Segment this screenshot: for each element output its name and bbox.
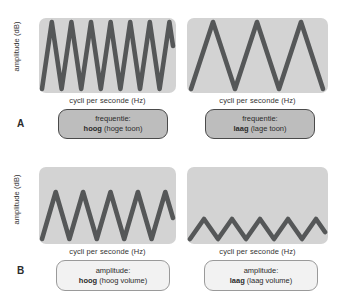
waveform-a-left	[39, 18, 176, 93]
callout-a-left-emphasis: hoog	[84, 124, 102, 133]
sound-wave-diagram: A amplitude (dB) cycli per seconde (Hz) …	[0, 0, 341, 295]
wave-path-high-amplitude	[42, 192, 173, 239]
waveform-a-right	[187, 18, 328, 93]
wave-path-high-frequency	[42, 22, 173, 89]
row-a: A amplitude (dB) cycli per seconde (Hz) …	[0, 0, 341, 147]
callout-a-right-emphasis: laag	[234, 124, 249, 133]
y-axis-label-b: amplitude (dB)	[12, 162, 21, 238]
x-axis-label-b-left: cycli per seconde (Hz)	[39, 247, 176, 256]
waveform-panel-a-left	[39, 18, 176, 93]
row-label-b: B	[17, 265, 24, 276]
callout-a-left-line2: hoog (hoge toon)	[84, 124, 143, 134]
callout-b-right-emphasis: laag	[230, 276, 245, 285]
x-axis-label-a-left: cycli per seconde (Hz)	[39, 96, 176, 105]
waveform-b-left	[39, 167, 176, 244]
y-axis-label-a: amplitude (dB)	[12, 9, 21, 85]
waveform-b-right	[187, 167, 328, 244]
callout-a-left-line1: frequentie:	[95, 114, 130, 124]
callout-b-left-rest: (hoog volume)	[99, 276, 147, 285]
callout-b-left-line1: amplitude:	[96, 266, 131, 276]
wave-path-low-amplitude	[190, 219, 325, 239]
waveform-panel-a-right	[187, 18, 328, 93]
callout-frequency-high: frequentie: hoog (hoge toon)	[58, 109, 168, 139]
callout-b-right-rest: (laag volume)	[247, 276, 292, 285]
row-label-a: A	[17, 118, 24, 129]
callout-a-right-line2: laag (lage toon)	[234, 124, 287, 134]
callout-b-left-line2: hoog (hoog volume)	[79, 276, 147, 286]
callout-b-right-line1: amplitude:	[244, 266, 279, 276]
callout-amplitude-low: amplitude: laag (laag volume)	[204, 260, 318, 291]
callout-b-right-line2: laag (laag volume)	[230, 276, 293, 286]
callout-a-right-rest: (lage toon)	[251, 124, 287, 133]
callout-frequency-low: frequentie: laag (lage toon)	[205, 109, 315, 139]
x-axis-label-a-right: cycli per seconde (Hz)	[187, 96, 328, 105]
waveform-panel-b-right	[187, 167, 328, 244]
callout-amplitude-high: amplitude: hoog (hoog volume)	[56, 260, 170, 291]
waveform-panel-b-left	[39, 167, 176, 244]
x-axis-label-b-right: cycli per seconde (Hz)	[187, 247, 328, 256]
wave-path-low-frequency	[191, 22, 323, 89]
callout-b-left-emphasis: hoog	[79, 276, 97, 285]
callout-a-right-line1: frequentie:	[242, 114, 277, 124]
callout-a-left-rest: (hoge toon)	[104, 124, 142, 133]
row-b: B amplitude (dB) cycli per seconde (Hz) …	[0, 147, 341, 295]
